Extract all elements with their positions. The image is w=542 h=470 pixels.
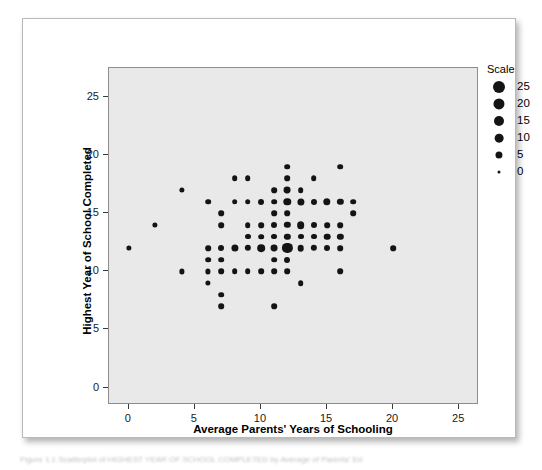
legend-bubble-wrap bbox=[485, 113, 513, 130]
x-tick-mark bbox=[260, 404, 261, 409]
y-tick-mark bbox=[103, 154, 108, 155]
data-point bbox=[298, 234, 304, 240]
data-point bbox=[258, 199, 264, 205]
data-point bbox=[337, 198, 343, 204]
data-point bbox=[351, 199, 357, 205]
legend-bubble-wrap bbox=[485, 164, 513, 181]
data-point bbox=[297, 221, 305, 229]
legend-label: 10 bbox=[517, 131, 530, 143]
scatter-plot-area bbox=[109, 68, 477, 403]
data-point bbox=[297, 245, 304, 252]
data-point bbox=[219, 257, 225, 263]
data-point bbox=[284, 187, 291, 194]
data-point bbox=[258, 222, 264, 228]
data-point bbox=[324, 222, 330, 228]
data-point bbox=[284, 222, 290, 228]
data-point bbox=[219, 269, 225, 275]
data-point bbox=[205, 280, 210, 285]
legend-bubble-icon bbox=[493, 81, 505, 93]
legend-item: 15 bbox=[485, 113, 542, 130]
data-point bbox=[324, 245, 330, 251]
data-point bbox=[271, 187, 277, 193]
legend-bubble-wrap bbox=[485, 79, 513, 96]
data-point bbox=[297, 198, 304, 205]
data-point bbox=[298, 187, 304, 193]
data-point bbox=[271, 210, 277, 216]
data-point bbox=[153, 222, 158, 227]
data-point bbox=[311, 222, 317, 228]
legend-item: 20 bbox=[485, 96, 542, 113]
data-point bbox=[126, 246, 131, 251]
legend-bubble-icon bbox=[494, 116, 504, 126]
data-point bbox=[390, 245, 396, 251]
legend-bubble-wrap bbox=[485, 130, 513, 147]
data-point bbox=[245, 234, 251, 240]
data-point bbox=[205, 245, 211, 251]
legend-label: 5 bbox=[517, 148, 523, 160]
x-tick-mark bbox=[194, 404, 195, 409]
legend-item: 25 bbox=[485, 79, 542, 96]
plot-panel bbox=[108, 67, 478, 404]
data-point bbox=[271, 234, 277, 240]
data-point bbox=[271, 257, 277, 263]
data-point bbox=[218, 245, 224, 251]
data-point bbox=[245, 269, 251, 275]
data-point bbox=[284, 198, 291, 205]
legend-item: 10 bbox=[485, 130, 542, 147]
legend-bubble-icon bbox=[497, 170, 500, 173]
legend-item: 5 bbox=[485, 147, 542, 164]
y-tick-mark bbox=[103, 328, 108, 329]
legend-label: 15 bbox=[517, 114, 530, 126]
data-point bbox=[245, 199, 251, 205]
x-axis-title: Average Parents' Years of Schooling bbox=[108, 423, 478, 435]
data-point bbox=[323, 198, 330, 205]
legend: Scale 2520151050 bbox=[485, 63, 542, 181]
x-tick-mark bbox=[458, 404, 459, 409]
data-point bbox=[337, 233, 343, 239]
legend-bubble-icon bbox=[495, 134, 504, 143]
y-tick-mark bbox=[103, 270, 108, 271]
data-point bbox=[258, 234, 264, 240]
legend-rows: 2520151050 bbox=[485, 79, 542, 181]
data-point bbox=[232, 199, 238, 205]
legend-bubble-icon bbox=[493, 98, 504, 109]
data-point bbox=[219, 222, 225, 228]
x-tick-mark bbox=[128, 404, 129, 409]
data-point bbox=[179, 269, 184, 274]
figure-card: 05101520250510152025 Average Parents' Ye… bbox=[22, 18, 516, 438]
data-point bbox=[337, 269, 343, 275]
data-point bbox=[205, 257, 211, 263]
y-tick-mark bbox=[103, 212, 108, 213]
data-point bbox=[337, 245, 343, 251]
data-point bbox=[337, 222, 343, 228]
legend-bubble-wrap bbox=[485, 147, 513, 164]
data-point bbox=[271, 199, 277, 205]
data-point bbox=[285, 269, 291, 275]
y-tick-mark bbox=[103, 96, 108, 97]
legend-item: 0 bbox=[485, 164, 542, 181]
data-point bbox=[231, 245, 238, 252]
data-point bbox=[245, 222, 251, 228]
data-point bbox=[245, 176, 251, 182]
data-point bbox=[285, 164, 291, 170]
data-point bbox=[311, 234, 317, 240]
x-tick-mark bbox=[326, 404, 327, 409]
data-point bbox=[219, 210, 225, 216]
data-point bbox=[219, 303, 225, 309]
y-tick-mark bbox=[103, 387, 108, 388]
data-point bbox=[257, 244, 265, 252]
y-axis-title: Highest Year of School Completed bbox=[81, 91, 93, 391]
data-point bbox=[285, 210, 291, 216]
legend-label: 20 bbox=[517, 97, 530, 109]
data-point bbox=[337, 164, 343, 170]
x-tick-mark bbox=[392, 404, 393, 409]
data-point bbox=[351, 210, 357, 216]
data-point bbox=[285, 176, 291, 182]
data-point bbox=[311, 245, 317, 251]
legend-bubble-icon bbox=[495, 151, 502, 158]
data-point bbox=[245, 245, 251, 251]
data-point bbox=[258, 269, 264, 275]
data-point bbox=[232, 269, 238, 275]
figure-caption-clipped: Figure 1.1 Scatterplot of HIGHEST YEAR O… bbox=[20, 455, 440, 467]
data-point bbox=[271, 269, 277, 275]
